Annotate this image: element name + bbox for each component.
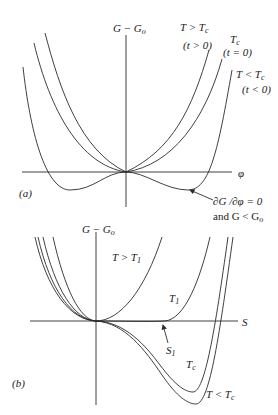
condition-a-below-critical: (t < 0) <box>242 84 271 95</box>
label-sub: 1 <box>137 256 141 265</box>
point-label-sub: 1 <box>172 349 176 358</box>
label-main: T > T <box>112 251 137 263</box>
label-sub: c <box>231 393 235 402</box>
panel-b-y-axis-label: G − Go <box>82 224 115 235</box>
s1-point-label: S1 <box>166 345 176 356</box>
label-a-critical: Tc <box>230 34 240 45</box>
curve-a-critical <box>34 43 222 172</box>
condition-a-above-critical: (t > 0) <box>183 40 212 51</box>
label-sub: c <box>205 26 209 35</box>
panel-b-x-axis-label: S <box>242 317 248 328</box>
label-b-below-critical: T < Tc <box>206 389 235 400</box>
curve-b-T1 <box>43 237 210 321</box>
annotation-sub: o <box>259 215 263 224</box>
label-sub: c <box>192 363 196 372</box>
label-a-below-critical: T < Tc <box>236 69 265 80</box>
landau-free-energy-figure: G − Go T > Tc (t > 0) Tc (t = 0) T < Tc … <box>0 0 278 415</box>
y-axis-label-main: G − G <box>113 22 142 34</box>
label-b-critical: Tc <box>186 359 196 370</box>
label-sub: 1 <box>175 297 179 306</box>
s1-arrow <box>163 325 168 343</box>
label-a-above-critical: T > Tc <box>180 22 209 33</box>
y-axis-label-main: G − G <box>82 223 111 235</box>
panel-a-graphics <box>22 33 232 207</box>
annotation-arrow-a <box>190 190 213 200</box>
label-main: T < T <box>236 68 261 80</box>
curve-a-above-critical <box>45 33 209 172</box>
label-main: T < T <box>206 388 231 400</box>
annotation-a-line1: ∂G /∂φ = 0 <box>213 196 262 207</box>
condition-a-critical: (t = 0) <box>223 47 252 58</box>
label-main: T > T <box>180 21 205 33</box>
panel-a-tag: (a) <box>19 188 32 199</box>
panel-b-tag: (b) <box>12 378 25 389</box>
panel-a-y-axis-label: G − Go <box>113 23 146 34</box>
figure-graphics <box>0 0 278 415</box>
label-b-T1: T1 <box>169 293 179 304</box>
y-axis-label-sub: o <box>111 228 115 237</box>
y-axis-label-sub: o <box>142 27 146 36</box>
annotation-main: and G < G <box>213 210 259 222</box>
annotation-a-line2: and G < Go <box>213 211 263 222</box>
label-sub: c <box>261 73 265 82</box>
label-b-above-T1: T > T1 <box>112 252 141 263</box>
panel-a-x-axis-label: φ <box>238 168 244 179</box>
